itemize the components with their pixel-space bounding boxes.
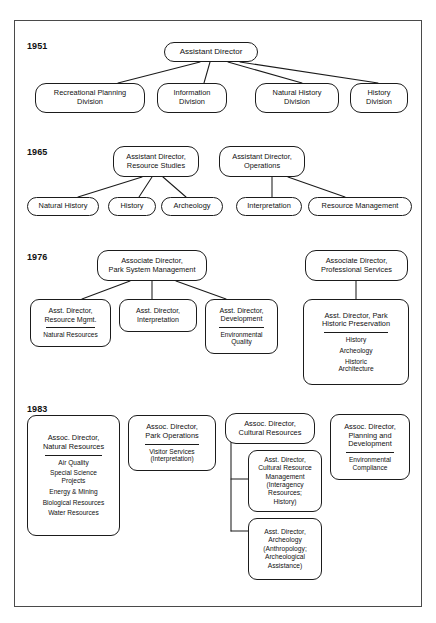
sub-item: History: [346, 336, 367, 343]
node-title: Archeology: [170, 202, 215, 211]
node-1983-assoc-director-planning-and-development[interactable]: Assoc. Director, Planning and Developmen…: [330, 414, 410, 480]
year-label-1976: 1976: [27, 252, 47, 262]
node-1983-asst-director-cultural-resource-management[interactable]: Asst. Director, Cultural Resource Manage…: [248, 450, 322, 512]
node-1983-asst-director-archeology[interactable]: Asst. Director, Archeology (Anthropology…: [248, 518, 322, 580]
node-divider: [219, 327, 263, 328]
year-label-1951: 1951: [27, 41, 47, 51]
node-title-line2: Interpretation: [133, 316, 183, 324]
node-sub-item-line2: (Interpretation): [147, 455, 196, 463]
node-1965-assistant-director-resource-studies[interactable]: Assistant Director, Resource Studies: [113, 146, 199, 177]
node-title-line3: Development: [344, 440, 396, 449]
node-title-line3: Management: [262, 473, 307, 481]
node-title: Resource Management: [318, 202, 403, 211]
node-1976-associate-director-professional-services[interactable]: Associate Director, Professional Service…: [305, 250, 408, 281]
sub-item-line2: Projects: [50, 477, 97, 484]
node-sub-item: Natural Resources: [40, 331, 101, 339]
node-title-line2: Resource Studies: [123, 162, 189, 171]
node-divider: [145, 444, 198, 445]
sub-item: Special Science Projects: [50, 469, 97, 484]
node-title-line6: History): [270, 498, 299, 506]
year-label-1983: 1983: [27, 404, 47, 414]
node-title-line2: Division: [362, 98, 396, 107]
sub-item-line1: Historic: [338, 358, 373, 365]
node-1965-history[interactable]: History: [108, 197, 156, 216]
node-title-line2: Division: [280, 98, 314, 107]
node-title-line1: Asst. Director,: [261, 456, 309, 464]
node-1965-interpretation[interactable]: Interpretation: [236, 197, 302, 216]
node-title: Interpretation: [243, 202, 295, 211]
node-title-line2: Natural Resources: [39, 443, 108, 452]
node-title-line2: Historic Preservation: [318, 320, 394, 329]
node-1965-assistant-director-operations[interactable]: Assistant Director, Operations: [219, 146, 305, 177]
node-title: Assistant Director: [176, 47, 247, 56]
sub-item: Water Resources: [48, 509, 99, 516]
node-title-line5: Assistance): [265, 562, 306, 570]
node-title-line4: (Interagency: [263, 481, 306, 489]
node-title: Natural History: [35, 202, 92, 211]
node-title-line2: Division: [175, 98, 209, 107]
node-title-line2: Resource Mgmt.: [40, 316, 100, 324]
node-1983-assoc-director-natural-resources[interactable]: Assoc. Director, Natural Resources Air Q…: [27, 415, 120, 536]
node-1976-associate-director-park-system-management[interactable]: Associate Director, Park System Manageme…: [97, 250, 207, 281]
node-1976-asst-director-park-historic-preservation[interactable]: Asst. Director, Park Historic Preservati…: [303, 299, 409, 385]
node-sub-item-line2: Quality: [228, 338, 255, 346]
node-sub-list: History Archeology Historic Architecture: [335, 336, 376, 373]
sub-item-line1: Special Science: [50, 469, 97, 476]
node-title-line4: Archeological: [262, 553, 308, 561]
node-title-line5: Resources;: [265, 489, 305, 497]
node-title-line2: Division: [73, 98, 107, 107]
sub-item: Archeology: [340, 347, 373, 354]
node-divider: [45, 455, 101, 456]
node-1965-natural-history[interactable]: Natural History: [27, 197, 99, 216]
node-title-line1: Asst. Director,: [261, 528, 309, 536]
node-sub-item-line1: Environmental: [346, 456, 394, 464]
node-1951-assistant-director[interactable]: Assistant Director: [164, 42, 258, 62]
org-chart-page: 1951 Assistant Director Recreational Pla…: [0, 0, 436, 623]
node-1983-assoc-director-park-operations[interactable]: Assoc. Director, Park Operations Visitor…: [128, 415, 216, 471]
node-title-line1: Asst. Director,: [132, 307, 184, 315]
node-1965-resource-management[interactable]: Resource Management: [308, 197, 412, 216]
node-title: History: [117, 202, 148, 211]
sub-item: Historic Architecture: [338, 358, 373, 373]
node-1951-recreational-planning-division[interactable]: Recreational Planning Division: [35, 83, 145, 113]
node-title-line3: (Anthropology;: [260, 545, 310, 553]
year-label-1965: 1965: [27, 147, 47, 157]
node-divider: [324, 332, 388, 333]
node-1951-natural-history-division[interactable]: Natural History Division: [255, 83, 339, 113]
node-title-line1: Asst. Director,: [44, 307, 96, 315]
node-1951-information-division[interactable]: Information Division: [157, 83, 227, 113]
node-divider: [346, 452, 394, 453]
node-sub-item-line2: Compliance: [350, 464, 391, 472]
node-title-line2: Park System Management: [104, 266, 199, 275]
node-title-line2: Development: [217, 315, 267, 323]
node-title-line2: Park Operations: [141, 432, 202, 441]
node-title-line1: Asst. Director,: [215, 307, 267, 315]
sub-item: Air Quality: [58, 459, 88, 466]
node-divider: [46, 327, 95, 328]
sub-item: Energy & Mining: [49, 488, 97, 495]
node-title-line2: Cultural Resource: [255, 464, 315, 472]
node-1976-asst-director-interpretation[interactable]: Asst. Director, Interpretation: [119, 299, 197, 332]
sub-item-line2: Architecture: [338, 365, 373, 372]
node-title-line2: Operations: [240, 162, 284, 171]
node-1951-history-division[interactable]: History Division: [350, 83, 408, 113]
node-1965-archeology[interactable]: Archeology: [161, 197, 223, 216]
node-sub-list: Air Quality Special Science Projects Ene…: [40, 459, 108, 517]
node-title-line2: Professional Services: [317, 266, 396, 275]
node-1983-assoc-director-cultural-resources[interactable]: Assoc. Director, Cultural Resources: [225, 413, 315, 444]
node-title-line2: Cultural Resources: [235, 429, 306, 438]
node-1976-asst-director-resource-mgmt[interactable]: Asst. Director, Resource Mgmt. Natural R…: [30, 299, 111, 347]
node-1976-asst-director-development[interactable]: Asst. Director, Development Environmenta…: [205, 299, 278, 354]
sub-item: Biological Resources: [43, 499, 105, 506]
node-sub-item-line1: Environmental: [217, 331, 265, 339]
node-sub-item-line1: Visitor Services: [146, 448, 197, 456]
node-title-line2: Archeology: [265, 536, 304, 544]
